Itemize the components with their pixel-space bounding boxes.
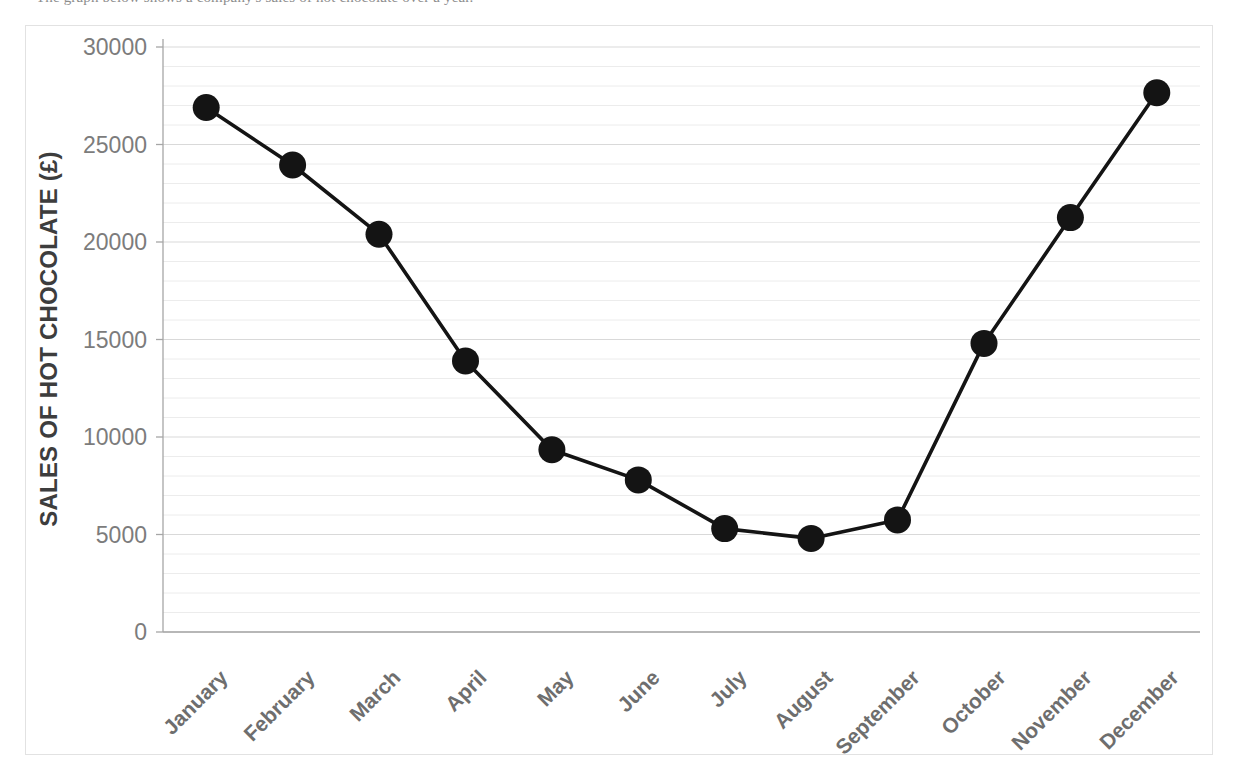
chart-frame [25, 25, 1213, 755]
caption-text: The graph below shows a company's sales … [36, 0, 474, 6]
caption-strip: The graph below shows a company's sales … [0, 0, 1242, 14]
